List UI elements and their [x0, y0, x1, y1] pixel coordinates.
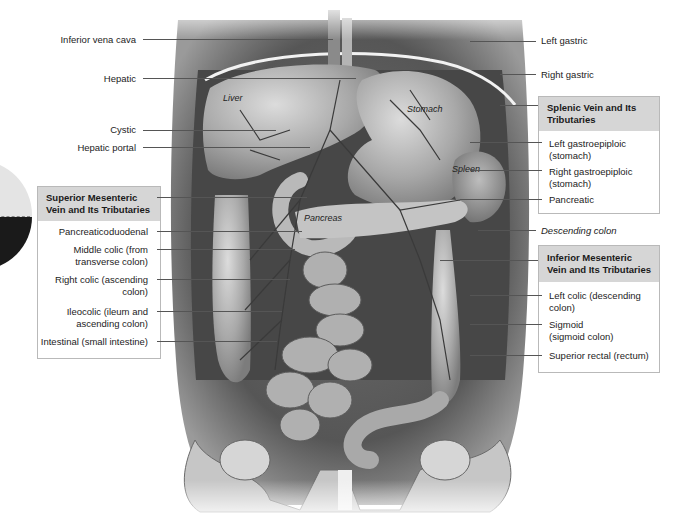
label-ileocolic: Ileocolic (ileum and ascending colon) [67, 306, 148, 329]
label-pancreaticoduodenal: Pancreaticoduodenal [59, 226, 148, 238]
leader-line [500, 74, 536, 75]
label-right-colic: Right colic (ascending colon) [55, 274, 148, 297]
label-line: Ileocolic (ileum and [67, 306, 148, 318]
label-line: Right colic (ascending [55, 274, 148, 286]
leader-line [470, 355, 542, 356]
label-middle-colic: Middle colic (from transverse colon) [74, 244, 148, 267]
box-title-line: Splenic Vein and Its [547, 102, 651, 114]
box-title-line: Vein and Its Tributaries [547, 264, 651, 276]
box-header: Superior Mesenteric Vein and Its Tributa… [38, 187, 160, 221]
label-left-gastroepiploic: Left gastroepiploic (stomach) [549, 138, 626, 161]
box-header: Splenic Vein and Its Tributaries [539, 97, 659, 131]
leader-line [500, 105, 538, 106]
label-line: Sigmoid [549, 319, 613, 331]
leader-line [157, 197, 307, 198]
organ-label-spleen: Spleen [452, 164, 480, 174]
box-header: Inferior Mesenteric Vein and Its Tributa… [539, 246, 659, 282]
label-line: (stomach) [549, 178, 632, 190]
leader-line [143, 39, 333, 40]
leader-line [470, 41, 536, 42]
leader-line [470, 295, 542, 296]
label-line: colon) [549, 302, 641, 314]
label-sigmoid: Sigmoid (sigmoid colon) [549, 319, 613, 342]
label-line: (stomach) [549, 150, 626, 162]
leader-line [157, 341, 277, 342]
label-left-gastric: Left gastric [541, 35, 587, 47]
label-left-colic: Left colic (descending colon) [549, 290, 641, 313]
leader-line [470, 170, 542, 171]
box-title-line: Superior Mesenteric [46, 192, 152, 204]
label-line: Middle colic (from [74, 244, 148, 256]
label-line: transverse colon) [74, 256, 148, 268]
leader-line [478, 230, 536, 231]
label-cystic: Cystic [110, 124, 136, 136]
label-superior-rectal: Superior rectal (rectum) [549, 350, 649, 362]
label-descending-colon: Descending colon [541, 225, 617, 237]
label-right-gastroepiploic: Right gastroepiploic (stomach) [549, 166, 632, 189]
label-line: ascending colon) [67, 318, 148, 330]
superior-mesenteric-box: Superior Mesenteric Vein and Its Tributa… [37, 186, 161, 359]
leader-line [157, 279, 290, 280]
leader-line [460, 199, 542, 200]
label-line: Right gastroepiploic [549, 166, 632, 178]
leader-line [143, 130, 276, 131]
label-line: (sigmoid colon) [549, 331, 613, 343]
leader-line [157, 311, 282, 312]
leader-line [470, 324, 542, 325]
leader-line [143, 147, 310, 148]
label-intestinal: Intestinal (small intestine) [41, 336, 148, 348]
box-title-line: Tributaries [547, 114, 651, 126]
organ-label-pancreas: Pancreas [304, 213, 342, 223]
organ-label-stomach: Stomach [407, 104, 443, 114]
label-hepatic: Hepatic [104, 73, 136, 85]
label-inferior-vena-cava: Inferior vena cava [60, 34, 136, 46]
leader-line [440, 260, 538, 261]
box-title-line: Vein and Its Tributaries [46, 204, 152, 216]
leader-line [470, 142, 542, 143]
leader-line [157, 249, 295, 250]
label-hepatic-portal: Hepatic portal [77, 142, 136, 154]
box-title-line: Inferior Mesenteric [547, 252, 651, 264]
label-pancreatic: Pancreatic [549, 194, 594, 206]
leader-line [157, 231, 302, 232]
label-right-gastric: Right gastric [541, 69, 594, 81]
organ-label-liver: Liver [223, 93, 243, 103]
label-line: colon) [55, 286, 148, 298]
label-line: Left colic (descending [549, 290, 641, 302]
label-line: Left gastroepiploic [549, 138, 626, 150]
leader-line [143, 78, 356, 79]
